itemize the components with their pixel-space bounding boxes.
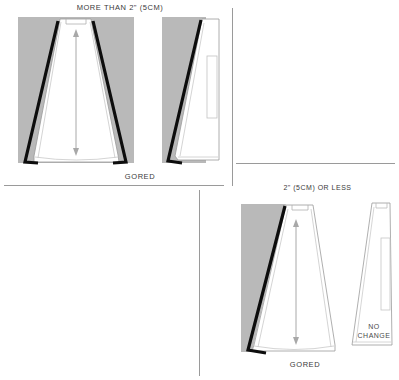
inner-rectangle-detail xyxy=(381,238,390,310)
figure-gored-skirt-front-reduced xyxy=(240,203,340,358)
bottom-section-footer-label: GORED xyxy=(265,360,345,369)
figure-gored-skirt-front-wide xyxy=(16,16,136,166)
bottom-section-heading: 2" (5CM) OR LESS xyxy=(240,184,395,191)
figure-gored-skirt-side-narrow xyxy=(161,16,223,166)
top-section-heading: MORE THAN 2" (5CM) xyxy=(0,3,240,12)
no-change-label-line2: CHANGE xyxy=(352,331,396,340)
divider-right-horizontal xyxy=(236,163,395,164)
divider-bottom-vertical xyxy=(199,190,200,376)
top-section-footer-label: GORED xyxy=(100,172,180,181)
divider-top-left-bottom xyxy=(4,185,224,186)
inner-rectangle-detail xyxy=(207,56,217,118)
pattern-adjustment-diagram: MORE THAN 2" (5CM) xyxy=(0,0,399,380)
divider-top-vertical xyxy=(232,8,233,186)
no-change-label: NO CHANGE xyxy=(352,322,396,340)
no-change-label-line1: NO xyxy=(352,322,396,331)
